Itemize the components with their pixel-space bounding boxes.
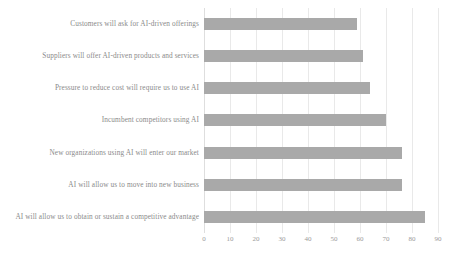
bar-row: Suppliers will offer AI-driven products …: [204, 40, 438, 72]
x-tick-50: 50: [331, 236, 338, 243]
bar: [204, 18, 357, 30]
x-tick-60: 60: [357, 236, 364, 243]
category-label: AI will allow us to obtain or sustain a …: [15, 213, 199, 220]
bar-row: AI will allow us to move into new busine…: [204, 169, 438, 201]
bar: [204, 211, 425, 223]
x-tick-70: 70: [383, 236, 390, 243]
bar: [204, 114, 386, 126]
plot-area: Customers will ask for AI-driven offerin…: [204, 8, 438, 233]
bar-row: Customers will ask for AI-driven offerin…: [204, 8, 438, 40]
x-tick-20: 20: [253, 236, 260, 243]
bar: [204, 82, 370, 94]
x-tick-90: 90: [435, 236, 442, 243]
bar-row: New organizations using AI will enter ou…: [204, 137, 438, 169]
x-tick-80: 80: [409, 236, 416, 243]
x-tick-30: 30: [279, 236, 286, 243]
x-tick-0: 0: [202, 236, 206, 243]
category-label: Incumbent competitors using AI: [102, 117, 199, 124]
category-label: Customers will ask for AI-driven offerin…: [70, 20, 199, 27]
x-axis-tick-labels: 0102030405060708090: [204, 236, 438, 250]
category-label: Pressure to reduce cost will require us …: [55, 85, 199, 92]
bar-row: Incumbent competitors using AI: [204, 104, 438, 136]
bar-series: Customers will ask for AI-driven offerin…: [204, 8, 438, 233]
x-tick-10: 10: [227, 236, 234, 243]
gridline-90: [438, 8, 439, 233]
category-label: AI will allow us to move into new busine…: [68, 181, 199, 188]
category-label: New organizations using AI will enter ou…: [49, 149, 199, 156]
bar: [204, 179, 402, 191]
bar: [204, 50, 363, 62]
category-label: Suppliers will offer AI-driven products …: [42, 53, 199, 60]
bar-row: AI will allow us to obtain or sustain a …: [204, 201, 438, 233]
bar: [204, 147, 402, 159]
bar-chart: Customers will ask for AI-driven offerin…: [0, 0, 460, 259]
bar-row: Pressure to reduce cost will require us …: [204, 72, 438, 104]
x-tick-40: 40: [305, 236, 312, 243]
